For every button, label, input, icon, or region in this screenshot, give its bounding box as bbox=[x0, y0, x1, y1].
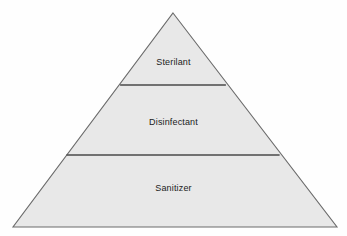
pyramid-graphic bbox=[0, 0, 347, 236]
pyramid-diagram: Sterilant Disinfectant Sanitizer bbox=[0, 0, 347, 236]
pyramid-body bbox=[13, 13, 337, 227]
